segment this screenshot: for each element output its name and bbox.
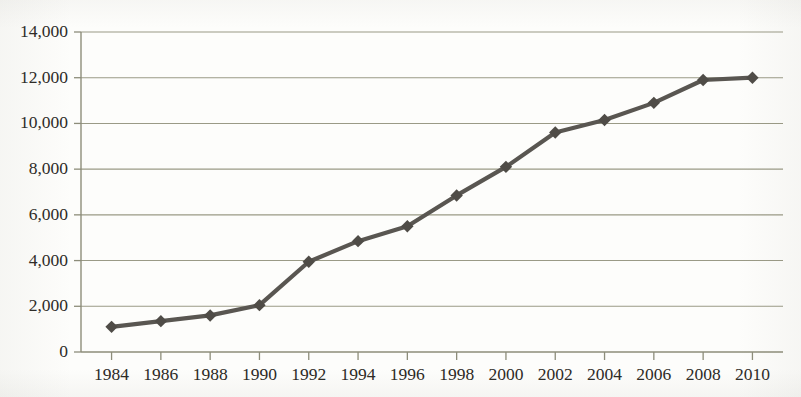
chart-page: 02,0004,0006,0008,00010,00012,00014,000 … [0, 0, 801, 397]
x-axis-tick-label: 1992 [291, 364, 326, 384]
y-axis-tick-labels: 02,0004,0006,0008,00010,00012,00014,000 [20, 21, 68, 361]
x-axis-tick-label: 2002 [538, 364, 573, 384]
x-axis-tick-label: 2000 [488, 364, 523, 384]
x-axis-tick-label: 1996 [390, 364, 425, 384]
y-axis-tick-label: 0 [59, 341, 68, 361]
x-axis-tick-label: 2010 [735, 364, 770, 384]
data-point-marker [204, 309, 216, 321]
y-axis-tick-label: 12,000 [20, 67, 68, 87]
x-axis-tick-label: 1998 [439, 364, 474, 384]
x-axis-ticks [112, 352, 753, 360]
x-axis-tick-label: 2008 [686, 364, 721, 384]
y-axis-tick-label: 10,000 [20, 112, 68, 132]
y-axis-tick-label: 6,000 [29, 204, 69, 224]
data-point-marker [598, 114, 610, 126]
data-point-marker [155, 315, 167, 327]
data-point-marker [105, 321, 117, 333]
x-axis-tick-label: 1984 [94, 364, 129, 384]
series-polyline [112, 78, 753, 327]
data-series-line [112, 78, 753, 327]
line-chart: 02,0004,0006,0008,00010,00012,00014,000 … [0, 0, 801, 397]
x-axis-tick-label: 1988 [193, 364, 228, 384]
data-point-marker [352, 235, 364, 247]
x-axis-tick-label: 1986 [143, 364, 178, 384]
y-axis-ticks [74, 32, 81, 352]
data-point-marker [648, 97, 660, 109]
data-point-marker [746, 72, 758, 84]
x-axis-tick-label: 1990 [242, 364, 277, 384]
y-axis-tick-label: 2,000 [29, 295, 69, 315]
y-axis-tick-label: 8,000 [29, 158, 69, 178]
y-axis-tick-label: 14,000 [20, 21, 68, 41]
y-axis-tick-label: 4,000 [29, 250, 69, 270]
x-axis-tick-label: 2006 [636, 364, 671, 384]
x-axis-tick-labels: 1984198619881990199219941996199820002002… [94, 364, 770, 384]
data-point-markers [105, 72, 758, 334]
gridlines [81, 32, 783, 306]
x-axis-tick-label: 2004 [587, 364, 622, 384]
data-point-marker [697, 74, 709, 86]
x-axis-tick-label: 1994 [341, 364, 376, 384]
